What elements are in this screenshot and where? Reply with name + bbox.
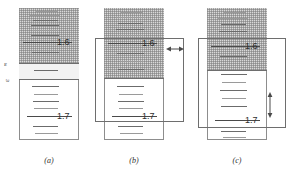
spectral-line: [33, 20, 58, 21]
spectral-line: [223, 137, 246, 138]
spectral-line: [36, 11, 58, 12]
panel-a: [19, 8, 79, 140]
spectral-line: [31, 25, 59, 26]
spectral-line: [116, 29, 144, 30]
spectral-line: [33, 30, 58, 31]
spectral-line: [32, 86, 59, 87]
spectral-line: [35, 133, 58, 134]
panel-b-horizontal-double-arrow: [166, 40, 184, 50]
panel-a-label-1p6: 1.6: [57, 38, 70, 47]
horizontal-double-arrow-icon: [166, 44, 184, 54]
spectral-line: [33, 101, 59, 102]
panel-c-label-1p6: 1.6: [245, 42, 258, 51]
spectral-line: [34, 108, 58, 109]
spectral-line: [219, 31, 247, 32]
spectral-line: [118, 23, 143, 24]
panel-a-epsilon-1: ε: [4, 61, 7, 68]
spectral-line: [115, 17, 145, 18]
panel-a-mid-band: [19, 63, 79, 79]
panel-a-epsilon-2: ε: [4, 79, 11, 82]
spectral-line: [34, 94, 58, 95]
spectral-line: [221, 131, 246, 132]
spectral-diagram-figure: 1.6 1.7 ε ε (a) 1.6 1.7 (b): [0, 0, 290, 173]
spectral-line: [31, 35, 59, 36]
spectral-line: [121, 12, 143, 13]
spectral-line: [118, 126, 143, 127]
spectral-line: [221, 24, 246, 25]
panel-b-label-1p7: 1.7: [142, 112, 155, 121]
spectral-line: [224, 12, 246, 13]
spectral-line: [34, 70, 58, 71]
spectral-line: [118, 35, 143, 36]
panel-c-vertical-double-arrow: [265, 92, 275, 118]
panel-a-label-1p7: 1.7: [57, 112, 70, 121]
spectral-line: [32, 52, 59, 53]
spectral-line: [30, 15, 60, 16]
panel-b-caption: (b): [114, 157, 154, 165]
spectral-line: [218, 18, 248, 19]
panel-a-divider-lower: [19, 79, 79, 80]
panel-a-divider-upper: [19, 63, 79, 64]
vertical-double-arrow-icon: [265, 92, 275, 118]
panel-b-label-1p6: 1.6: [142, 39, 155, 48]
panel-c-caption: (c): [217, 157, 257, 165]
spectral-line: [120, 133, 143, 134]
spectral-line: [33, 126, 58, 127]
panel-c-label-1p7: 1.7: [245, 116, 258, 125]
panel-a-caption: (a): [29, 157, 69, 165]
